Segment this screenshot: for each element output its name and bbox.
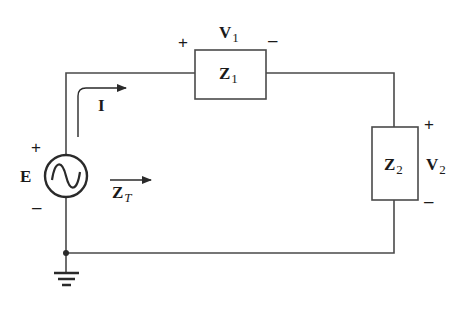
source-label: E: [20, 168, 31, 185]
v2-subscript: 2: [439, 162, 446, 177]
z1-main: Z: [219, 64, 230, 83]
z2-subscript: 2: [396, 162, 403, 177]
wire-top-right: [266, 73, 394, 127]
v2-main: V: [426, 155, 438, 174]
current-label: I: [98, 97, 105, 114]
v1-subscript: 1: [232, 30, 239, 45]
wire-bottom: [66, 197, 394, 253]
z1-subscript: 1: [231, 71, 238, 86]
total-impedance-label: ZT: [112, 184, 132, 201]
junction-dot: [63, 250, 69, 256]
v2-label: V2: [426, 156, 446, 173]
source-plus-sign: +: [31, 139, 41, 156]
zt-subscript: T: [124, 190, 131, 205]
v1-main: V: [219, 23, 231, 42]
v1-minus-sign: –: [268, 32, 277, 49]
circuit-diagram: + E – I ZT + V1 – Z1 + Z2 V2 –: [0, 0, 460, 313]
z1-label: Z1: [219, 65, 238, 82]
source-minus-sign: –: [32, 199, 41, 216]
ground-icon: [54, 273, 79, 285]
sine-wave-icon: [52, 164, 80, 187]
v1-label: V1: [219, 24, 239, 41]
v2-plus-sign: +: [424, 116, 434, 133]
v2-minus-sign: –: [424, 193, 433, 210]
z2-label: Z2: [384, 156, 403, 173]
z2-main: Z: [384, 155, 395, 174]
v1-plus-sign: +: [178, 34, 188, 51]
zt-main: Z: [112, 183, 123, 202]
wire-top-left: [66, 73, 195, 155]
